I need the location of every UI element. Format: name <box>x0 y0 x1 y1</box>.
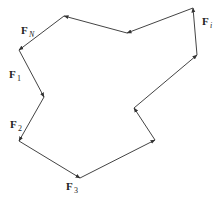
vector-f9-arrow <box>64 16 127 33</box>
svg-text:F: F <box>21 24 28 36</box>
svg-text:F: F <box>10 118 17 130</box>
vector-f5-arrow <box>134 108 155 140</box>
svg-text:i: i <box>210 21 212 30</box>
svg-text:N: N <box>28 30 35 39</box>
label-fn: F N <box>21 24 35 39</box>
label-f1: F 1 <box>9 68 21 83</box>
svg-text:1: 1 <box>17 74 21 83</box>
vector-f6-arrow <box>134 55 197 108</box>
svg-text:F: F <box>9 68 16 80</box>
vector-f1-arrow <box>19 50 44 97</box>
svg-text:F: F <box>202 15 209 27</box>
svg-text:3: 3 <box>74 186 78 195</box>
svg-text:2: 2 <box>18 124 22 133</box>
vector-f3-arrow <box>19 141 80 178</box>
label-f2: F 2 <box>10 118 22 133</box>
svg-text:F: F <box>66 180 73 192</box>
force-polygon-diagram: F N F 1 F 2 F 3 F i <box>0 0 221 204</box>
vector-f2-arrow <box>19 97 44 141</box>
vector-fi-arrow <box>193 8 197 55</box>
label-fi: F i <box>202 15 212 30</box>
vector-f8-arrow <box>127 8 193 33</box>
vector-f4-arrow <box>80 140 155 178</box>
label-f3: F 3 <box>66 180 78 195</box>
